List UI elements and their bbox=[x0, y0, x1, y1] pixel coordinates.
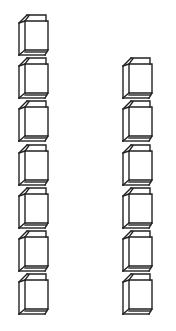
cube bbox=[121, 273, 157, 315]
cube-icon bbox=[121, 230, 157, 272]
cube-icon bbox=[121, 144, 157, 186]
cube-icon bbox=[17, 187, 53, 229]
cube bbox=[17, 100, 53, 142]
cube-icon bbox=[121, 57, 157, 99]
cube bbox=[121, 187, 157, 229]
cube-icon bbox=[121, 100, 157, 142]
cube-icon bbox=[17, 144, 53, 186]
cube bbox=[121, 144, 157, 186]
cube bbox=[17, 14, 53, 56]
cube bbox=[17, 57, 53, 99]
cube-icon bbox=[17, 230, 53, 272]
cube-diagram bbox=[0, 0, 176, 331]
cube bbox=[121, 100, 157, 142]
cube-icon bbox=[17, 14, 53, 56]
cube-icon bbox=[17, 273, 53, 315]
cube bbox=[17, 230, 53, 272]
cube-icon bbox=[121, 187, 157, 229]
cube bbox=[121, 57, 157, 99]
cube bbox=[121, 230, 157, 272]
cube bbox=[17, 144, 53, 186]
cube-icon bbox=[17, 100, 53, 142]
cube-icon bbox=[121, 273, 157, 315]
cube-icon bbox=[17, 57, 53, 99]
cube bbox=[17, 273, 53, 315]
cube bbox=[17, 187, 53, 229]
